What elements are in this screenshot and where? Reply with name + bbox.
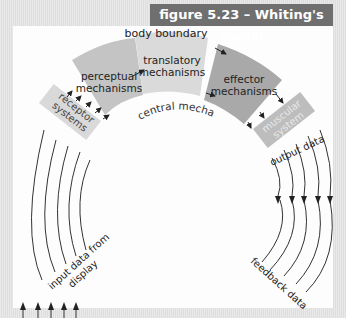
feedback-data-label: feedback data xyxy=(249,255,310,311)
body-boundary-label: body boundary xyxy=(124,27,208,40)
svg-text:perceptualmechanisms: perceptualmechanisms xyxy=(76,70,142,94)
whitings-model-diagram: body boundary perceptualmechanisms trans… xyxy=(0,0,346,318)
svg-text:translatorymechanisms: translatorymechanisms xyxy=(139,54,205,78)
svg-text:input data fromdisplay: input data fromdisplay xyxy=(46,231,119,300)
